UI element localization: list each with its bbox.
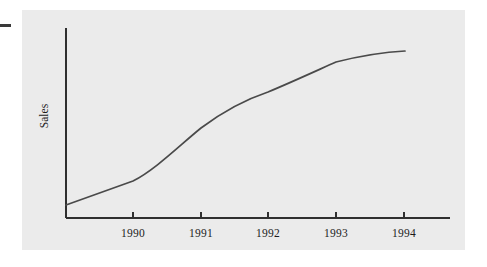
- x-tick-label-1991: 1991: [179, 227, 223, 239]
- sales-data-line: [66, 51, 405, 205]
- x-tick-label-1994: 1994: [382, 227, 426, 239]
- x-tick-label-1990: 1990: [111, 227, 155, 239]
- x-tick-label-1992: 1992: [246, 227, 290, 239]
- figure-canvas: 1990 1991 1992 1993 1994 Sales: [0, 0, 487, 267]
- x-tick-label-1993: 1993: [314, 227, 358, 239]
- y-axis-label: Sales: [38, 94, 50, 138]
